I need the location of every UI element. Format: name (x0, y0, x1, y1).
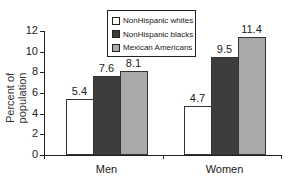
legend-label: NonHispanic whites (123, 16, 193, 25)
legend-label: Mexican Americans (123, 43, 192, 52)
bar-value-label: 11.4 (232, 23, 272, 35)
x-tick (281, 155, 282, 159)
y-tick-label: 8 (18, 66, 38, 77)
bar (93, 76, 121, 155)
bar (238, 37, 266, 155)
y-tick (40, 52, 44, 53)
y-tick-label: 12 (18, 25, 38, 36)
y-tick-label: 6 (18, 87, 38, 98)
legend-swatch-whites (112, 17, 120, 25)
y-tick (40, 72, 44, 73)
x-tick (44, 155, 45, 159)
y-tick (40, 93, 44, 94)
y-tick (40, 134, 44, 135)
y-tick (40, 114, 44, 115)
x-category-label: Men (67, 163, 147, 175)
bar (211, 57, 239, 155)
legend: NonHispanic whites NonHispanic blacks Me… (107, 10, 196, 57)
y-tick-label: 2 (18, 128, 38, 139)
legend-label: NonHispanic blacks (123, 30, 193, 39)
y-tick (40, 31, 44, 32)
x-tick (163, 155, 164, 159)
bar (184, 106, 212, 155)
x-category-label: Women (185, 163, 265, 175)
y-axis (44, 31, 45, 155)
legend-swatch-mexican-americans (112, 44, 120, 52)
y-tick-label: 4 (18, 108, 38, 119)
y-tick-label: 0 (18, 149, 38, 160)
bar-value-label: 8.1 (114, 57, 154, 69)
y-tick-label: 10 (18, 46, 38, 57)
legend-item-whites: NonHispanic whites (112, 14, 191, 28)
legend-swatch-blacks (112, 30, 120, 38)
bar-chart: Percent of population 024681012 Men5.47.… (0, 0, 292, 181)
legend-item-mexican-americans: Mexican Americans (112, 41, 191, 55)
bar (66, 99, 94, 155)
bar (120, 71, 148, 155)
legend-item-blacks: NonHispanic blacks (112, 28, 191, 42)
